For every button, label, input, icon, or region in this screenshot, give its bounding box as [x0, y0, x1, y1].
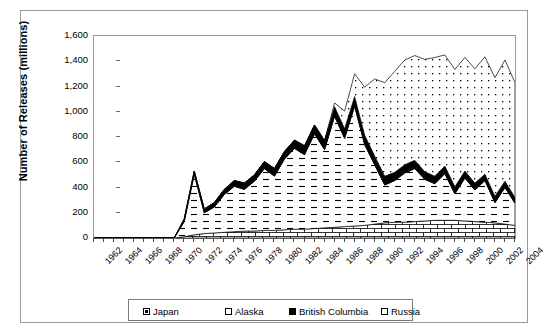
- x-tick-mark: [334, 238, 335, 242]
- x-tick-label: 1978: [263, 245, 284, 266]
- x-tick-mark: [183, 238, 184, 242]
- x-tick-label: 1988: [363, 245, 384, 266]
- x-tick-mark: [304, 238, 305, 242]
- legend-label: British Columbia: [299, 306, 368, 317]
- x-tick-label: 2002: [504, 245, 525, 266]
- x-tick-mark: [474, 238, 475, 242]
- x-tick-mark: [143, 238, 144, 242]
- x-tick-mark: [233, 238, 234, 242]
- x-tick-mark: [223, 238, 224, 242]
- x-tick-mark: [324, 238, 325, 242]
- legend-label: Japan: [153, 306, 179, 317]
- swatch-inner-icon: [143, 308, 150, 315]
- x-tick-label: 2004: [524, 245, 545, 266]
- x-tick-label: 1982: [303, 245, 324, 266]
- swatch-solid-icon: [289, 308, 296, 315]
- x-tick-label: 1980: [283, 245, 304, 266]
- x-tick-mark: [404, 238, 405, 242]
- x-tick-mark: [93, 238, 94, 242]
- x-tick-label: 1970: [183, 245, 204, 266]
- x-tick-mark: [434, 238, 435, 242]
- x-tick-mark: [494, 238, 495, 242]
- x-tick-mark: [414, 238, 415, 242]
- x-tick-label: 1972: [203, 245, 224, 266]
- x-tick-mark: [484, 238, 485, 242]
- x-tick-mark: [464, 238, 465, 242]
- x-tick-label: 1994: [424, 245, 445, 266]
- x-tick-mark: [123, 238, 124, 242]
- x-tick-mark: [133, 238, 134, 242]
- chart-legend: JapanAlaskaBritish ColumbiaRussia: [128, 299, 413, 321]
- x-tick-mark: [293, 238, 294, 242]
- legend-item-japan: Japan: [143, 306, 179, 317]
- x-tick-mark: [273, 238, 274, 242]
- x-tick-mark: [153, 238, 154, 242]
- x-tick-label: 1990: [384, 245, 405, 266]
- x-tick-mark: [213, 238, 214, 242]
- x-tick-mark: [504, 238, 505, 242]
- x-tick-mark: [113, 238, 114, 242]
- swatch-open-icon: [225, 308, 232, 315]
- x-tick-mark: [364, 238, 365, 242]
- x-tick-label: 1968: [163, 245, 184, 266]
- x-tick-mark: [203, 238, 204, 242]
- x-tick-mark: [103, 238, 104, 242]
- x-tick-label: 1986: [343, 245, 364, 266]
- x-tick-mark: [344, 238, 345, 242]
- x-tick-label: 1976: [243, 245, 264, 266]
- x-tick-mark: [384, 238, 385, 242]
- x-tick-mark: [354, 238, 355, 242]
- x-tick-mark: [283, 238, 284, 242]
- legend-item-alaska: Alaska: [225, 306, 264, 317]
- legend-item-british-columbia: British Columbia: [289, 306, 368, 317]
- x-tick-label: 1962: [103, 245, 124, 266]
- swatch-open-icon: [381, 308, 388, 315]
- x-tick-label: 1984: [323, 245, 344, 266]
- x-tick-label: 1966: [143, 245, 164, 266]
- x-tick-mark: [454, 238, 455, 242]
- x-tick-mark: [394, 238, 395, 242]
- x-tick-mark: [514, 238, 515, 242]
- x-tick-mark: [193, 238, 194, 242]
- x-tick-mark: [424, 238, 425, 242]
- legend-label: Russia: [391, 306, 420, 317]
- legend-item-russia: Russia: [381, 306, 420, 317]
- x-tick-mark: [173, 238, 174, 242]
- x-tick-label: 2000: [484, 245, 505, 266]
- x-tick-mark: [444, 238, 445, 242]
- x-tick-label: 1992: [404, 245, 425, 266]
- x-tick-mark: [163, 238, 164, 242]
- legend-label: Alaska: [235, 306, 264, 317]
- x-tick-label: 1996: [444, 245, 465, 266]
- x-tick-mark: [243, 238, 244, 242]
- x-tick-mark: [253, 238, 254, 242]
- x-tick-label: 1998: [464, 245, 485, 266]
- x-tick-label: 1964: [123, 245, 144, 266]
- x-tick-mark: [263, 238, 264, 242]
- x-tick-label: 1974: [223, 245, 244, 266]
- x-tick-mark: [314, 238, 315, 242]
- x-tick-mark: [374, 238, 375, 242]
